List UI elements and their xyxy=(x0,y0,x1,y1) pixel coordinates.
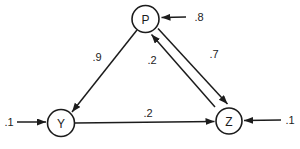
edge-external-to-z xyxy=(244,120,281,121)
edge-p-to-y xyxy=(72,30,137,112)
edge-label-p-z: .7 xyxy=(209,48,218,60)
edge-label-p-y: .9 xyxy=(92,51,101,63)
node-label-z: Z xyxy=(225,115,232,129)
edge-label-external-p: .8 xyxy=(194,11,203,23)
edge-z-to-p xyxy=(152,35,216,108)
node-label-y: Y xyxy=(57,117,65,131)
edge-external-to-p xyxy=(162,17,187,18)
edge-p-to-z xyxy=(158,29,228,105)
edge-label-y-z: .2 xyxy=(143,107,152,119)
edge-y-to-z xyxy=(75,122,215,124)
diagram-canvas: .9 .2 .7 .2 .8 .1 .1 P Y Z xyxy=(0,0,300,149)
path-diagram: .9 .2 .7 .2 .8 .1 .1 P Y Z xyxy=(0,0,300,149)
edge-label-external-y: .1 xyxy=(4,116,13,128)
edge-label-external-z: .1 xyxy=(285,114,294,126)
edge-label-z-p: .2 xyxy=(147,54,156,66)
node-label-p: P xyxy=(141,13,149,27)
